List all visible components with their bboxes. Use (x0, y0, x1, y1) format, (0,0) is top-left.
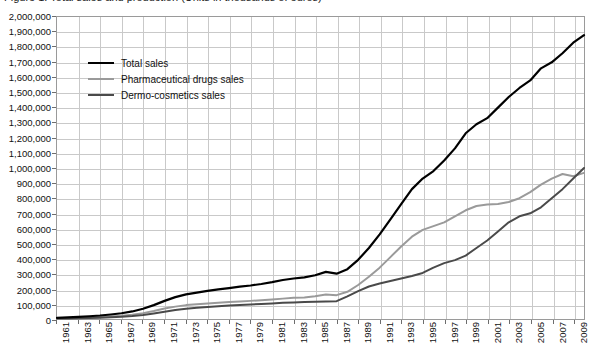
y-axis-tick-mark (52, 153, 56, 154)
legend-item: Dermo-cosmetics sales (88, 87, 256, 103)
x-axis-tick-label: 1965 (103, 322, 114, 343)
x-axis-tick-label: 2005 (535, 322, 546, 343)
y-axis-tick-mark (52, 77, 56, 78)
x-axis-tick-label: 2003 (513, 322, 524, 343)
x-axis-tick-label: 1999 (470, 322, 481, 343)
x-axis-tick-label: 1997 (449, 322, 460, 343)
x-axis-tick-label: 1983 (298, 322, 309, 343)
x-axis-tick-mark (99, 320, 100, 324)
x-axis-tick-mark (56, 320, 57, 324)
x-axis-tick-label: 1973 (190, 322, 201, 343)
legend-color-swatch (88, 94, 114, 96)
x-axis-tick-mark (401, 320, 402, 324)
y-axis-tick-mark (52, 229, 56, 230)
x-axis-tick-mark (358, 320, 359, 324)
x-axis-tick-label: 1989 (362, 322, 373, 343)
y-axis-tick-mark (52, 168, 56, 169)
x-axis-tick-label: 1981 (276, 322, 287, 343)
x-axis-tick-label: 1971 (168, 322, 179, 343)
x-axis-tick-mark (121, 320, 122, 324)
chart-legend: Total salesPharmaceutical drugs salesDer… (88, 53, 256, 105)
x-axis-tick-label: 1991 (384, 322, 395, 343)
x-axis-tick-label: 1979 (254, 322, 265, 343)
x-axis-tick-label: 2001 (492, 322, 503, 343)
x-axis-tick-label: 2009 (578, 322, 589, 343)
y-axis-tick-mark (52, 138, 56, 139)
legend-color-swatch (88, 62, 114, 64)
x-axis-tick-label: 1967 (125, 322, 136, 343)
x-axis-tick-mark (509, 320, 510, 324)
x-axis-tick-label: 1985 (319, 322, 330, 343)
legend-item-label: Pharmaceutical drugs sales (121, 74, 244, 85)
x-axis-tick-mark (423, 320, 424, 324)
legend-item: Total sales (88, 55, 256, 71)
x-axis-tick-mark (78, 320, 79, 324)
x-axis-tick-label: 1975 (211, 322, 222, 343)
x-axis-tick-mark (380, 320, 381, 324)
y-axis-tick-mark (52, 107, 56, 108)
x-axis-tick-mark (488, 320, 489, 324)
y-axis-tick-mark (52, 305, 56, 306)
x-axis-tick-mark (186, 320, 187, 324)
x-axis-tick-mark (553, 320, 554, 324)
x-axis-tick-mark (207, 320, 208, 324)
x-axis-tick-mark (315, 320, 316, 324)
x-axis-tick-label: 1987 (341, 322, 352, 343)
y-axis-tick-mark (52, 183, 56, 184)
chart-figure: Figure 1. Total sales and production (Un… (0, 0, 591, 355)
y-axis-tick-mark (52, 92, 56, 93)
x-axis-tick-label: 1993 (405, 322, 416, 343)
x-axis-tick-mark (294, 320, 295, 324)
y-axis-tick-mark (52, 122, 56, 123)
y-axis-tick-mark (52, 214, 56, 215)
legend-item-label: Total sales (121, 58, 168, 69)
legend-item-label: Dermo-cosmetics sales (121, 90, 225, 101)
y-axis-tick-mark (52, 244, 56, 245)
legend-color-swatch (88, 78, 114, 80)
x-axis-tick-label: 1995 (427, 322, 438, 343)
x-axis-tick-mark (466, 320, 467, 324)
x-axis-tick-mark (272, 320, 273, 324)
x-axis-tick-mark (531, 320, 532, 324)
y-axis-tick-mark (52, 31, 56, 32)
y-axis-tick-mark (52, 16, 56, 17)
y-axis-tick-mark (52, 290, 56, 291)
x-axis-tick-mark (574, 320, 575, 324)
x-axis-tick-mark (164, 320, 165, 324)
y-axis-tick-mark (52, 62, 56, 63)
x-axis-tick-label: 2007 (557, 322, 568, 343)
x-axis-tick-label: 1961 (60, 322, 71, 343)
y-axis-tick-mark (52, 274, 56, 275)
x-axis-tick-label: 1963 (82, 322, 93, 343)
y-axis-tick-mark (52, 198, 56, 199)
x-axis-tick-label: 1977 (233, 322, 244, 343)
x-axis-tick-label: 1969 (146, 322, 157, 343)
x-axis-tick-mark (445, 320, 446, 324)
y-axis-tick-mark (52, 259, 56, 260)
x-axis-tick-mark (229, 320, 230, 324)
legend-item: Pharmaceutical drugs sales (88, 71, 256, 87)
x-axis-tick-mark (142, 320, 143, 324)
x-axis-tick-mark (250, 320, 251, 324)
y-axis-tick-mark (52, 46, 56, 47)
x-axis-tick-mark (337, 320, 338, 324)
